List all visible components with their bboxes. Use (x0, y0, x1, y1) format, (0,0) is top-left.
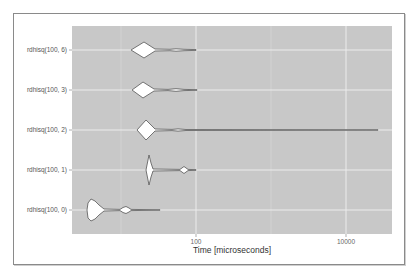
y-label-row-1: rdhisq(100, 1) (27, 166, 67, 174)
x-tick-10000: 10000 (337, 238, 355, 245)
y-label-row-6: rdhisq(100, 6) (27, 46, 67, 54)
y-label-row-3: rdhisq(100, 3) (27, 86, 67, 94)
x-tick-100: 100 (191, 238, 202, 245)
y-label-row-0: rdhisq(100, 0) (27, 206, 67, 214)
y-label-row-2: rdhisq(100, 2) (27, 126, 67, 134)
violin-chart: rdhisq(100, 6) rdhisq(100, 3) rdhisq(100… (0, 0, 414, 276)
x-axis-label: Time [microseconds] (193, 245, 271, 255)
